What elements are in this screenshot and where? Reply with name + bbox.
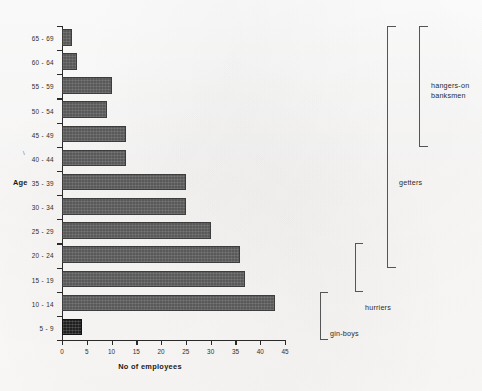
- bar: [62, 246, 240, 263]
- y-axis-tick-label: 30 - 34: [32, 204, 54, 211]
- y-axis-tick-label: 45 - 49: [32, 131, 54, 138]
- bracket-label-hangers-on-banksmen: hangers-on banksmen: [431, 81, 469, 100]
- x-axis-tick-label: 40: [257, 348, 264, 355]
- y-axis-tick-label: 60 - 64: [32, 59, 54, 66]
- x-axis-tick-label: 25: [182, 348, 189, 355]
- bar: [62, 150, 126, 167]
- y-axis-tick: [57, 50, 62, 51]
- x-axis-tick: [136, 340, 137, 345]
- x-axis-tick-label: 0: [60, 348, 64, 355]
- x-axis-tick: [285, 340, 286, 345]
- bar: [62, 174, 186, 191]
- bar-chart: 65 - 6960 - 6455 - 5950 - 5445 - 4940 - …: [0, 0, 482, 391]
- y-axis-tick-label: 5 - 9: [39, 324, 54, 331]
- y-axis-tick: [57, 147, 62, 148]
- x-axis-tick: [87, 340, 88, 345]
- bar: [62, 319, 82, 336]
- x-axis-tick: [186, 340, 187, 345]
- x-axis-tick: [161, 340, 162, 345]
- y-axis-tick: [57, 123, 62, 124]
- bar: [62, 126, 126, 143]
- x-axis-tick-label: 5: [85, 348, 89, 355]
- bracket-label-gin-boys: gin-boys: [330, 329, 359, 339]
- y-axis-tick: [57, 292, 62, 293]
- bar: [62, 271, 245, 288]
- bracket-gin-boys: [320, 292, 328, 340]
- y-axis-title: Age: [13, 178, 28, 187]
- plot-area: 65 - 6960 - 6455 - 5950 - 5445 - 4940 - …: [62, 26, 285, 340]
- y-axis-tick: [57, 268, 62, 269]
- bar: [62, 29, 72, 46]
- bar-row: 40 - 44: [62, 147, 285, 171]
- y-axis-tick-label: 50 - 54: [32, 107, 54, 114]
- bar: [62, 53, 77, 70]
- x-axis-title: No of employees: [0, 362, 300, 371]
- bar-row: 45 - 49: [62, 123, 285, 147]
- bar-row: 5 - 9: [62, 316, 285, 340]
- bar-row: 25 - 29: [62, 219, 285, 243]
- bracket-hurriers: [355, 243, 363, 291]
- y-axis-tick: [57, 74, 62, 75]
- x-axis-tick: [62, 340, 63, 345]
- y-axis-tick-label: 15 - 19: [32, 276, 54, 283]
- x-axis-tick: [235, 340, 236, 345]
- bracket-label-hurriers: hurriers: [365, 303, 391, 313]
- x-axis-tick: [211, 340, 212, 345]
- bracket-getters: [387, 26, 396, 268]
- bar-row: 20 - 24: [62, 243, 285, 267]
- y-axis-tick-label: 20 - 24: [32, 252, 54, 259]
- y-axis-tick: [57, 243, 62, 244]
- bar: [62, 222, 211, 239]
- y-axis-tick: [57, 195, 62, 196]
- bracket-label-getters: getters: [399, 178, 422, 188]
- y-axis-tick: [57, 26, 62, 27]
- bar-row: 60 - 64: [62, 50, 285, 74]
- x-axis-line: [62, 340, 286, 341]
- x-axis-tick-label: 35: [232, 348, 239, 355]
- y-axis-tick: [57, 316, 62, 317]
- y-axis-tick: [57, 171, 62, 172]
- x-axis-tick-label: 45: [281, 348, 288, 355]
- y-axis-tick: [57, 98, 62, 99]
- x-axis-tick-label: 15: [133, 348, 140, 355]
- bar: [62, 77, 112, 94]
- y-axis-tick-label: 55 - 59: [32, 83, 54, 90]
- x-axis-tick-label: 20: [158, 348, 165, 355]
- x-axis-tick: [260, 340, 261, 345]
- bracket-hangers-on-banksmen: [419, 26, 428, 147]
- bar-row: 55 - 59: [62, 74, 285, 98]
- bar-row: 50 - 54: [62, 98, 285, 122]
- bar-row: 10 - 14: [62, 292, 285, 316]
- y-axis-tick-label: 35 - 39: [32, 179, 54, 186]
- bar: [62, 295, 275, 312]
- bar: [62, 101, 107, 118]
- y-axis-stray-mark: \: [23, 150, 25, 156]
- x-axis-tick-label: 10: [108, 348, 115, 355]
- x-axis-tick: [112, 340, 113, 345]
- y-axis-tick: [57, 219, 62, 220]
- bar-row: 30 - 34: [62, 195, 285, 219]
- bar-row: 65 - 69: [62, 26, 285, 50]
- y-axis-tick-label: 65 - 69: [32, 35, 54, 42]
- y-axis-tick-label: 10 - 14: [32, 300, 54, 307]
- y-axis-tick-label: 25 - 29: [32, 228, 54, 235]
- bar-row: 15 - 19: [62, 268, 285, 292]
- bar-row: 35 - 39: [62, 171, 285, 195]
- x-axis-tick-label: 30: [207, 348, 214, 355]
- y-axis-tick-label: 40 - 44: [32, 155, 54, 162]
- bar: [62, 198, 186, 215]
